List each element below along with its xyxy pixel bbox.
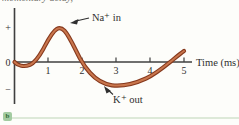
y-label-minus: − <box>5 84 11 95</box>
panel-label-badge: b <box>3 112 12 121</box>
panel-label: b <box>6 113 10 120</box>
na-in-annotation-label: Na⁺ in <box>92 12 122 23</box>
x-tick-label-5: 5 <box>182 65 187 76</box>
ion-current-curve-outline <box>15 28 185 85</box>
k-out-annotation-label: K⁺ out <box>113 94 143 105</box>
x-axis-label: Time (ms) <box>196 57 239 69</box>
y-label-plus: + <box>5 22 11 33</box>
x-tick-label-3: 3 <box>114 65 119 76</box>
panel-divider-line <box>7 117 239 119</box>
y-label-zero: 0 <box>6 57 11 68</box>
ion-current-chart: 1 2 3 4 5 + 0 − Time (ms) Na⁺ in K⁺ out <box>0 0 239 125</box>
x-tick-label-1: 1 <box>46 65 51 76</box>
na-annotation-arrowhead-icon <box>70 19 79 25</box>
action-potential-figure: momentary delay, 1 2 3 4 5 + 0 − Time (m… <box>0 0 239 125</box>
